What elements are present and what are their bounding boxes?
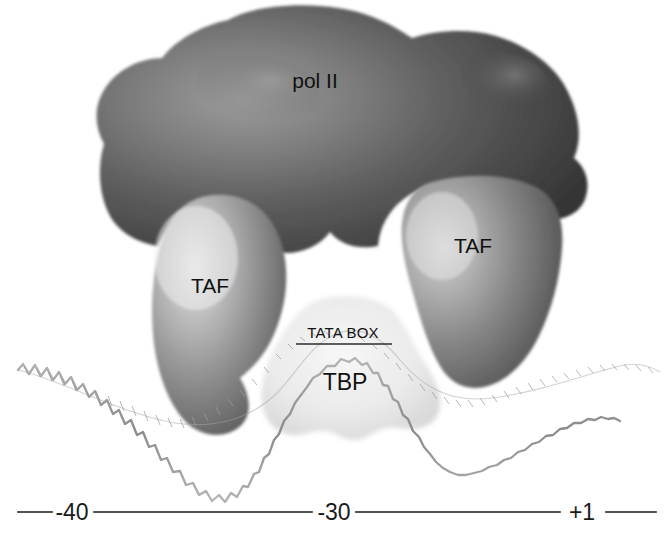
tbp-label: TBP xyxy=(323,369,368,395)
pol-ii-highlight-left xyxy=(156,55,320,139)
tbp-body xyxy=(262,296,441,440)
scale-tick-label-minus40: -40 xyxy=(55,499,88,525)
diagram-canvas: pol II TAF TAF TBP TA xyxy=(0,0,671,534)
transcription-complex-figure: pol II TAF TAF TBP TA xyxy=(0,0,671,534)
taf-right-complex[interactable]: TAF xyxy=(402,176,563,388)
tata-box-label: TATA BOX xyxy=(307,324,379,341)
position-scale: -40 -30 +1 xyxy=(18,499,656,525)
tbp-complex[interactable]: TBP xyxy=(262,296,441,440)
scale-tick-label-minus30: -30 xyxy=(317,499,350,525)
taf-left-label: TAF xyxy=(191,274,229,297)
pol-ii-label: pol II xyxy=(292,69,338,92)
scale-tick-label-plus1: +1 xyxy=(569,499,595,525)
taf-right-label: TAF xyxy=(454,234,492,257)
